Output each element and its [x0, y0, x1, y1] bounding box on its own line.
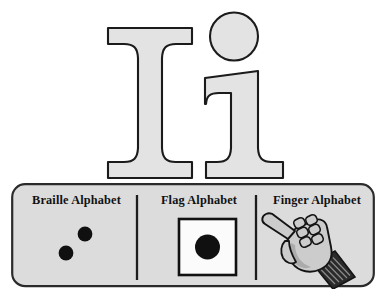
index-finger: [262, 213, 295, 239]
alphabet-panel: Braille Alphabet Flag Alphabet Finger Al…: [11, 183, 375, 289]
flag-center-circle: [195, 235, 220, 260]
braille-dot-lower-left: [59, 246, 74, 261]
lowercase-letter-i: [205, 13, 283, 179]
letter-flashcard: Braille Alphabet Flag Alphabet Finger Al…: [0, 0, 386, 299]
semaphore-flag-icon: [137, 213, 257, 285]
letter-pair-display: [0, 0, 386, 182]
uppercase-letter-I: [108, 28, 192, 178]
section-label-flag: Flag Alphabet: [139, 193, 259, 208]
pointing-hand-icon: [255, 205, 375, 289]
braille-dot-upper-right: [78, 227, 93, 242]
braille-cell-icon: [11, 213, 137, 285]
section-label-braille: Braille Alphabet: [14, 193, 139, 208]
